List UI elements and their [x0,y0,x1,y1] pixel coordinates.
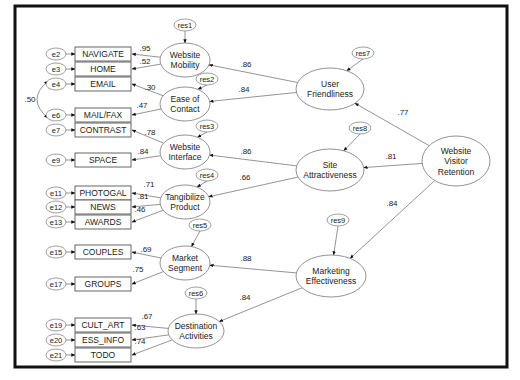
error-label: e2 [52,50,60,59]
residual-res1: res1 [174,19,196,31]
latent-label-line: Visitor [444,156,468,166]
residual-res7: res7 [352,47,374,59]
observed-label: CULT_ART [81,320,124,330]
observed-groups: GROUPS [75,277,131,291]
loading-coefficient: .69 [140,245,152,254]
observed-label: PHOTOGAL [79,188,126,198]
observed-contrast: CONTRAST [75,123,131,137]
loading-coefficient: .78 [144,128,156,137]
error-e3: e3 [46,63,66,75]
latent-marketing-effectiveness: MarketingEffectiveness [296,255,366,297]
observed-ess-info: ESS_INFO [75,333,131,347]
loading-coefficient: .30 [144,83,156,92]
error-e9: e9 [46,154,66,166]
observed-email: EMAIL [75,77,131,91]
error-label: e12 [50,203,63,212]
error-label: e11 [50,189,62,198]
latent-label-line: Segment [168,263,203,273]
structural-path [209,177,298,197]
error-e11: e11 [46,187,66,199]
error-label: e9 [52,156,60,165]
observed-label: HOME [90,64,116,74]
error-e19: e19 [46,319,66,331]
error-e17: e17 [46,278,66,290]
latent-label-line: User [321,79,339,89]
latent-website-interface: WebsiteInterface [160,135,210,169]
latent-destination-activities: DestinationActivities [168,314,224,348]
residual-path [334,226,338,255]
residual-res6: res6 [185,287,207,299]
observed-couples: COUPLES [75,245,131,259]
covariance-path [37,81,48,118]
structural-coefficient: .66 [239,173,251,182]
loading-coefficient: .81 [137,192,149,201]
residual-label: res7 [356,49,371,58]
node-layer: NAVIGATEe2HOMEe3EMAILe4MAIL/FAXe6CONTRAS… [46,19,490,362]
structural-path [210,155,297,166]
error-e13: e13 [46,216,66,228]
observed-news: NEWS [75,200,131,214]
observed-navigate: NAVIGATE [75,47,131,61]
observed-label: COUPLES [83,247,124,257]
latent-label-line: Website [441,146,472,156]
error-e6: e6 [46,109,66,121]
residual-path [197,132,207,137]
residual-path [197,181,207,187]
residual-res8: res8 [349,122,371,134]
loading-coefficient: .75 [132,265,144,274]
error-label: e6 [52,111,60,120]
residual-res2: res2 [196,73,218,85]
structural-coefficient: .84 [386,199,398,208]
error-label: e15 [50,248,63,257]
residual-label: res3 [200,122,215,131]
error-label: e13 [50,218,63,227]
error-e15: e15 [46,246,66,258]
error-label: e19 [50,321,63,330]
residual-label: res6 [189,289,204,298]
latent-market-segment: MarketSegment [160,246,210,280]
error-label: e17 [50,280,63,289]
latent-label-line: Effectiveness [306,276,356,286]
structural-path [350,181,435,259]
observed-label: ESS_INFO [82,335,124,345]
observed-photogal: PHOTOGAL [75,186,131,200]
error-label: e21 [50,351,63,360]
loading-coefficient: .74 [134,337,146,346]
structural-path [209,65,298,83]
structural-coefficient: .86 [240,60,252,69]
loading-coefficient: .63 [134,323,146,332]
structural-path [219,288,302,322]
observed-label: EMAIL [90,79,116,89]
sem-diagram: NAVIGATEe2HOMEe3EMAILe4MAIL/FAXe6CONTRAS… [0,0,520,380]
residual-label: res9 [331,216,346,225]
loading-coefficient: .67 [141,312,153,321]
error-e7: e7 [46,124,66,136]
latent-label-line: Product [170,202,200,212]
latent-label-line: Website [170,50,201,60]
structural-path [210,265,297,273]
covariance-coefficient: .50 [24,95,36,104]
observed-label: GROUPS [85,279,122,289]
latent-tangibilize-product: TangibilizeProduct [160,185,210,219]
residual-path [344,134,360,151]
loading-coefficient: .47 [136,101,148,110]
residual-label: res5 [193,221,208,230]
error-e20: e20 [46,334,66,346]
loading-coefficient: .52 [139,57,151,66]
latent-label-line: Activities [179,331,213,341]
latent-label-line: Attractiveness [303,170,356,180]
residual-res9: res9 [327,214,349,226]
observed-label: CONTRAST [80,125,127,135]
structural-coefficient: .88 [240,254,252,263]
latent-label-line: Market [172,253,199,263]
loading-coefficient: .95 [139,44,151,53]
observed-label: TODO [91,350,116,360]
latent-label-line: Destination [175,321,218,331]
error-e2: e2 [46,48,66,60]
structural-coefficient: .86 [240,147,252,156]
observed-todo: TODO [75,348,131,362]
error-e4: e4 [46,78,66,90]
residual-label: res4 [200,171,215,180]
latent-website-visitor-retention: WebsiteVisitorRetention [422,136,490,186]
latent-label-line: Tangibilize [165,192,205,202]
